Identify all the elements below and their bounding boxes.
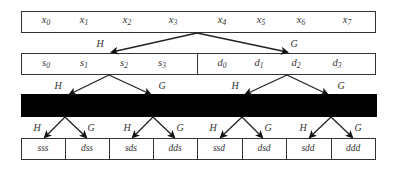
filter-label-h: H — [96, 38, 103, 49]
filter-label-h: H — [209, 122, 216, 133]
filter-label-h: H — [123, 122, 130, 133]
filter-label-h: H — [54, 80, 61, 91]
filter-label-g: G — [290, 38, 297, 49]
filter-label-g: G — [176, 122, 183, 133]
filter-label-g: G — [158, 80, 165, 91]
filter-label-g: G — [354, 122, 361, 133]
filter-label-h: H — [33, 122, 40, 133]
filter-label-g: G — [264, 122, 271, 133]
filter-label-g: G — [337, 80, 344, 91]
filter-label-h: H — [299, 122, 306, 133]
filter-label-h: H — [231, 80, 238, 91]
filter-label-g: G — [87, 122, 94, 133]
